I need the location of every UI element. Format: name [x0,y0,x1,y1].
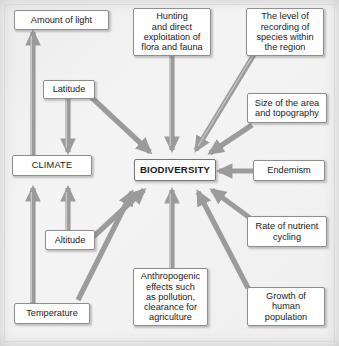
diagram-page: Amount of light Hunting and direct explo… [0,0,339,346]
node-endemism[interactable]: Endemism [253,160,325,181]
node-label: Latitude [53,84,86,94]
node-anthropogenic[interactable]: Anthropogenic effects such as pollution,… [133,268,208,326]
arrow-latitude-to-biodiversity [90,96,150,152]
node-biodiversity[interactable]: BIODIVERSITY [134,159,216,181]
node-level-of-recording[interactable]: The level of recording of species within… [246,8,324,56]
node-temperature[interactable]: Temperature [14,303,90,324]
node-label: Hunting and direct exploitation of flora… [141,11,202,52]
node-size-of-area[interactable]: Size of the area and topography [247,93,327,123]
node-label: Growth of human population [265,291,307,322]
node-climate[interactable]: CLIMATE [12,155,92,176]
node-label: Size of the area and topography [255,98,319,119]
node-hunting[interactable]: Hunting and direct exploitation of flora… [133,8,211,56]
node-rate-of-nutrient-cycling[interactable]: Rate of nutrient cycling [247,216,327,247]
node-label: Amount of light [31,15,92,25]
arrow-anthropogenic-left-to-biodiversity [150,192,158,268]
node-label: Rate of nutrient cycling [256,221,319,242]
node-latitude[interactable]: Latitude [43,80,95,99]
arrow-altitude-to-biodiversity [92,190,144,238]
node-label: Temperature [26,308,78,318]
node-label: The level of recording of species within… [256,11,313,52]
node-altitude[interactable]: Altitude [45,230,95,250]
arrow-nutrient-to-biodiversity [212,190,250,218]
node-label: BIODIVERSITY [140,165,210,176]
node-growth-of-human-population[interactable]: Growth of human population [247,287,325,326]
node-label: CLIMATE [32,160,73,170]
node-label: Anthropogenic effects such as pollution,… [141,271,200,322]
node-amount-of-light[interactable]: Amount of light [14,10,109,30]
node-label: Altitude [55,235,86,245]
node-label: Endemism [267,165,310,175]
arrow-size-to-biodiversity [210,125,252,153]
